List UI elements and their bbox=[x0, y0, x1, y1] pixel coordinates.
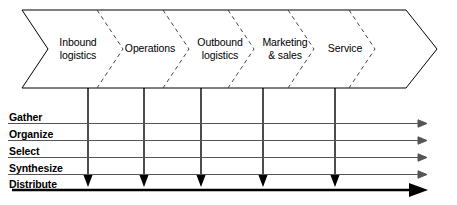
diagram-vector-layer bbox=[0, 0, 457, 205]
stage-connector-arrowhead-4 bbox=[259, 175, 267, 185]
stage-label-service: Service bbox=[313, 42, 377, 55]
process-row-label-distribute: Distribute bbox=[9, 178, 57, 190]
value-chain-diagram: Inbound logistics Operations Outbound lo… bbox=[0, 0, 457, 205]
stage-connector-arrowhead-5 bbox=[331, 175, 339, 185]
stage-label-marketing-sales: Marketing & sales bbox=[251, 36, 319, 61]
distribute-axis-arrowhead bbox=[409, 183, 428, 197]
process-row-arrowhead-organize bbox=[418, 137, 427, 144]
process-row-label-gather: Gather bbox=[9, 111, 42, 123]
stage-connector-group bbox=[84, 88, 339, 185]
process-row-label-organize: Organize bbox=[9, 128, 53, 140]
stage-label-operations: Operations bbox=[116, 42, 184, 55]
stage-label-outbound-logistics: Outbound logistics bbox=[186, 36, 254, 61]
stage-connector-arrowhead-2 bbox=[140, 175, 148, 185]
process-row-arrowhead-synthesize bbox=[418, 171, 427, 178]
process-row-label-select: Select bbox=[9, 145, 39, 157]
process-row-arrowhead-gather bbox=[418, 120, 427, 127]
process-row-label-synthesize: Synthesize bbox=[9, 162, 63, 174]
stage-connector-arrowhead-3 bbox=[197, 175, 205, 185]
process-row-arrow-group bbox=[8, 120, 427, 178]
stage-label-inbound-logistics: Inbound logistics bbox=[44, 36, 112, 61]
distribute-axis-arrow bbox=[12, 183, 428, 197]
stage-connector-arrowhead-1 bbox=[84, 175, 92, 185]
process-row-arrowhead-select bbox=[418, 154, 427, 161]
